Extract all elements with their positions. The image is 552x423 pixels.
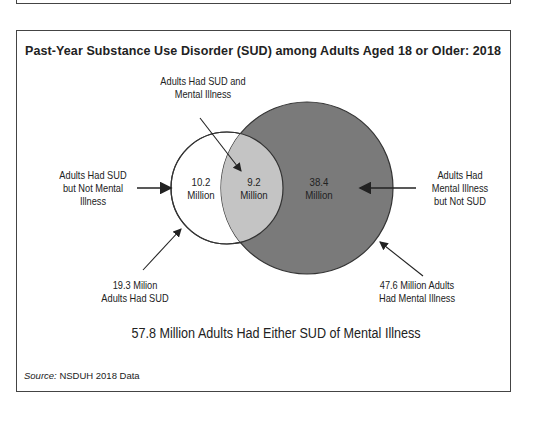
total-caption: 57.8 Million Adults Had Either SUD of Me… [28,325,525,341]
arrow-sud-total [143,229,181,270]
arrow-mi-total [380,242,423,276]
label-sud-total: 19.3 Milion Adults Had SUD [100,279,170,305]
value-mi-only: 38.4 Million [297,176,341,202]
source-note: Source: NSDUH 2018 Data [24,370,140,381]
value-sud-only: 10.2 Million [179,176,223,202]
label-sud-only: Adults Had SUD but Not Mental Illness [53,169,132,208]
venn-diagram [0,0,552,423]
label-mi-total: 47.6 Million Adults Had Mental Illness [369,279,466,305]
value-overlap: 9.2 Million [232,176,276,202]
label-overlap: Adults Had SUD and Mental Illness [155,75,252,101]
label-mi-only: Adults Had Mental Illness but Not SUD [420,169,499,208]
